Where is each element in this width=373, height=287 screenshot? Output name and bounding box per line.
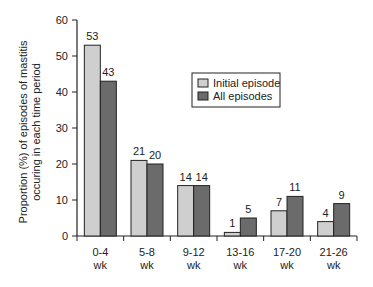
bar-initial-episode bbox=[318, 222, 334, 236]
bar-chart: Proportion (%) of episodes of mastitisoc… bbox=[0, 0, 373, 287]
legend: Initial episodeAll episodes bbox=[192, 73, 280, 107]
x-tick-label: wk bbox=[139, 259, 154, 271]
x-tick-label: wk bbox=[326, 259, 341, 271]
y-axis-title: Proportion (%) of episodes of mastitis bbox=[17, 40, 29, 223]
data-label: 14 bbox=[196, 171, 208, 183]
bar-initial-episode bbox=[224, 232, 240, 236]
x-tick-label: 13-16 bbox=[226, 246, 254, 258]
y-tick-label: 10 bbox=[56, 194, 68, 206]
data-label: 11 bbox=[289, 181, 300, 193]
bar-all-episodes bbox=[100, 81, 116, 236]
data-label: 9 bbox=[339, 189, 345, 201]
data-label: 43 bbox=[102, 66, 114, 78]
y-axis: 0102030405060 bbox=[56, 14, 77, 242]
x-tick-label: 5-8 bbox=[139, 246, 155, 258]
x-tick-label: wk bbox=[93, 259, 108, 271]
data-label: 1 bbox=[229, 217, 235, 229]
data-label: 4 bbox=[323, 207, 329, 219]
x-tick-label: wk bbox=[233, 259, 248, 271]
y-tick-label: 30 bbox=[56, 122, 68, 134]
x-tick-label: 9-12 bbox=[183, 246, 205, 258]
y-axis-title: occuring in each time period bbox=[30, 63, 42, 201]
y-tick-label: 0 bbox=[62, 230, 68, 242]
x-tick-label: wk bbox=[186, 259, 201, 271]
data-label: 20 bbox=[149, 149, 161, 161]
y-tick-label: 50 bbox=[56, 50, 68, 62]
y-axis-label: Proportion (%) of episodes of mastitisoc… bbox=[17, 40, 42, 223]
data-label: 5 bbox=[245, 203, 251, 215]
legend-swatch bbox=[198, 92, 208, 100]
bar-initial-episode bbox=[178, 186, 194, 236]
x-tick-label: 17-20 bbox=[273, 246, 301, 258]
bar-all-episodes bbox=[287, 196, 303, 236]
data-label: 14 bbox=[180, 171, 192, 183]
legend-swatch bbox=[198, 79, 208, 87]
data-label: 7 bbox=[276, 196, 282, 208]
data-label: 21 bbox=[133, 145, 145, 157]
bar-all-episodes bbox=[334, 204, 350, 236]
bar-initial-episode bbox=[271, 211, 287, 236]
x-tick-label: 0-4 bbox=[92, 246, 108, 258]
x-axis: 0-4wk5-8wk9-12wk13-16wk17-20wk21-26wk bbox=[77, 236, 357, 271]
y-tick-label: 60 bbox=[56, 14, 68, 26]
bars: 5343212014141571149 bbox=[84, 30, 349, 236]
data-label: 53 bbox=[86, 30, 98, 42]
x-tick-label: wk bbox=[279, 259, 294, 271]
bar-initial-episode bbox=[131, 160, 147, 236]
bar-initial-episode bbox=[84, 45, 100, 236]
y-tick-label: 40 bbox=[56, 86, 68, 98]
bar-all-episodes bbox=[147, 164, 163, 236]
legend-label: All episodes bbox=[213, 90, 273, 102]
bar-all-episodes bbox=[194, 186, 210, 236]
legend-label: Initial episode bbox=[213, 77, 280, 89]
bar-all-episodes bbox=[240, 218, 256, 236]
x-tick-label: 21-26 bbox=[320, 246, 348, 258]
y-tick-label: 20 bbox=[56, 158, 68, 170]
